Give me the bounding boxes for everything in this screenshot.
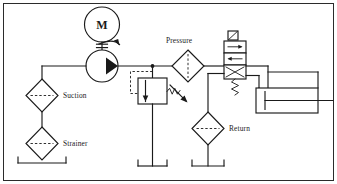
pressure-filter xyxy=(172,50,204,82)
cylinder-return-loop xyxy=(268,72,318,88)
return-filter xyxy=(192,112,224,145)
pressure-line-pump-to-filter xyxy=(118,64,172,78)
pressure-filter-label: Pressure xyxy=(166,36,193,45)
relief-valve-body xyxy=(138,78,167,104)
hydraulic-circuit-diagram: M Suction xyxy=(0,0,337,184)
valve-port-b-line xyxy=(246,76,259,89)
hydraulic-pump xyxy=(86,50,118,82)
valve-port-a-line xyxy=(246,66,268,88)
return-filter-label: Return xyxy=(229,124,250,133)
relief-valve xyxy=(131,72,188,167)
circuit-canvas: M Suction xyxy=(0,0,337,184)
strainer-label: Strainer xyxy=(63,139,88,148)
directional-valve xyxy=(224,31,246,95)
electric-motor: M xyxy=(85,7,120,42)
cylinder xyxy=(256,88,333,113)
suction-filter-label: Suction xyxy=(63,91,87,100)
suction-line xyxy=(42,66,86,79)
valve-tank-line xyxy=(208,74,224,113)
valve-spring-icon xyxy=(232,79,239,95)
strainer-filter xyxy=(26,127,58,160)
electric-motor-label: M xyxy=(96,18,107,32)
suction-filter xyxy=(26,79,58,112)
